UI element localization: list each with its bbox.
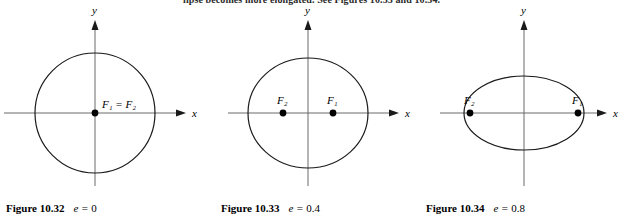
eccentricity-symbol: e =: [493, 202, 508, 214]
figure-panel-10-33: x y F₂ F₁ Figure 10.33e = 0.4: [215, 0, 420, 220]
figure-10-32-graphic: x y F₁ = F₂: [0, 0, 215, 190]
focus-point-f1: [575, 110, 582, 117]
figure-number-label: Figure 10.33: [221, 202, 279, 214]
y-axis-label: y: [91, 4, 97, 16]
figure-number-label: Figure 10.32: [6, 202, 64, 214]
eccentricity-value: 0.4: [306, 202, 320, 214]
figure-caption-10-34: Figure 10.34e = 0.8: [426, 202, 525, 214]
y-axis-arrowhead: [92, 20, 99, 30]
figure-10-34-graphic: x y F₂ F₁: [420, 0, 626, 190]
focus-label-f2: F₂: [276, 94, 288, 106]
figure-panel-10-34: x y F₂ F₁ Figure 10.34e = 0.8: [420, 0, 626, 220]
eccentricity-symbol: e =: [288, 202, 303, 214]
focus-label-f2: F₂: [463, 94, 475, 106]
x-axis-arrowhead: [597, 110, 607, 117]
figure-panel-10-32: x y F₁ = F₂ Figure 10.32e = 0: [0, 0, 215, 220]
focus-label-f1-equals-f2: F₁ = F₂: [101, 98, 136, 110]
eccentricity-value: 0.8: [511, 202, 525, 214]
focus-point-f2: [467, 110, 474, 117]
figure-caption-10-33: Figure 10.33e = 0.4: [221, 202, 320, 214]
x-axis-label: x: [191, 107, 197, 119]
focus-label-f1: F₁: [571, 94, 583, 106]
focus-label-f1: F₁: [326, 94, 338, 106]
y-axis-label: y: [520, 4, 526, 16]
focus-point-f1: [330, 110, 337, 117]
y-axis-arrowhead: [521, 20, 528, 30]
eccentricity-value: 0: [91, 202, 97, 214]
figure-number-label: Figure 10.34: [426, 202, 484, 214]
focus-point-f2: [280, 110, 287, 117]
figure-caption-10-32: Figure 10.32e = 0: [6, 202, 97, 214]
x-axis-arrowhead: [389, 110, 399, 117]
x-axis-label: x: [404, 107, 410, 119]
focus-point-f1-f2: [92, 110, 99, 117]
x-axis-arrowhead: [176, 110, 186, 117]
y-axis-label: y: [304, 4, 310, 16]
x-axis-label: x: [612, 107, 618, 119]
y-axis-arrowhead: [305, 20, 312, 30]
eccentricity-symbol: e =: [73, 202, 88, 214]
figure-10-33-graphic: x y F₂ F₁: [215, 0, 420, 190]
